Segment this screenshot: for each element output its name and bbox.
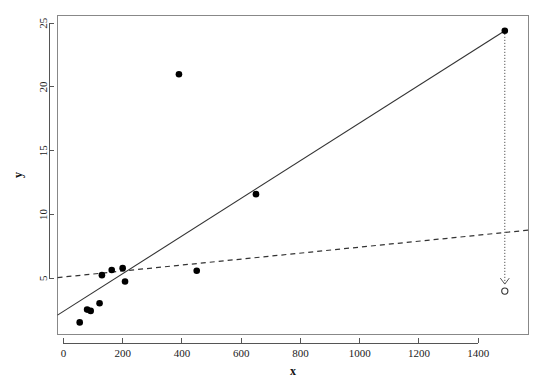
- data-point-filled: [96, 300, 103, 307]
- x-tick-label: 1400: [467, 347, 490, 359]
- y-tick-label: 5: [37, 275, 49, 281]
- x-tick-label: 0: [61, 347, 67, 359]
- data-point-filled: [176, 71, 183, 78]
- data-point-filled: [99, 272, 106, 279]
- y-axis-ticks: 510152025: [37, 17, 54, 281]
- x-tick-label: 400: [174, 347, 191, 359]
- data-point-filled: [122, 278, 129, 285]
- plot-panel-border: [58, 16, 529, 335]
- plot-canvas: 0200400600800100012001400 510152025 x y: [0, 0, 549, 389]
- data-point-open: [502, 288, 508, 294]
- y-tick-label: 10: [37, 209, 49, 221]
- y-tick-label: 25: [37, 17, 49, 29]
- data-point-filled: [87, 308, 94, 315]
- data-point-filled: [119, 265, 126, 272]
- data-point-filled: [76, 319, 83, 326]
- scatter-plot-figure: 0200400600800100012001400 510152025 x y: [0, 0, 549, 389]
- x-tick-label: 600: [233, 347, 250, 359]
- solid-fit-line: [58, 31, 505, 315]
- x-axis-label: x: [290, 364, 296, 378]
- plot-frame: [58, 16, 529, 335]
- data-point-filled: [108, 267, 115, 274]
- x-tick-label: 800: [292, 347, 309, 359]
- fit-lines: [58, 31, 529, 315]
- x-tick-label: 200: [114, 347, 131, 359]
- data-point-filled: [253, 191, 260, 198]
- annotations: [500, 31, 509, 284]
- y-tick-label: 20: [37, 81, 49, 93]
- y-axis-label: y: [11, 172, 25, 178]
- x-axis-ticks: 0200400600800100012001400: [61, 338, 490, 359]
- x-tick-label: 1000: [349, 347, 372, 359]
- x-tick-label: 1200: [408, 347, 431, 359]
- data-point-filled: [193, 267, 200, 274]
- y-tick-label: 15: [37, 145, 49, 157]
- data-point-filled: [502, 28, 509, 35]
- data-points: [76, 28, 508, 326]
